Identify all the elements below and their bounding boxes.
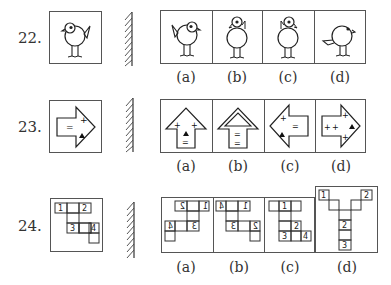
svg-text:3: 3 — [231, 222, 236, 231]
option-a-label[interactable]: (a) — [166, 158, 206, 174]
mirror-icon — [125, 98, 135, 152]
svg-text:2: 2 — [364, 191, 369, 200]
svg-text:=: = — [234, 130, 241, 139]
svg-text:=: = — [292, 122, 299, 131]
question-number: 23. — [18, 118, 42, 136]
option-b-label[interactable]: (b) — [217, 69, 257, 85]
svg-text:+: + — [342, 111, 349, 120]
option-b-grid-icon[interactable]: 4 1 3 2 — [213, 197, 264, 253]
question-number: 24. — [18, 217, 42, 235]
svg-text:+: + — [174, 121, 181, 130]
question-number: 22. — [18, 29, 42, 47]
option-b-label[interactable]: (b) — [218, 158, 258, 174]
svg-text:4: 4 — [303, 232, 308, 241]
mirror-icon — [126, 202, 136, 258]
arrow-right-icon: + = — [50, 101, 103, 154]
svg-text:2: 2 — [253, 222, 258, 231]
option-d-label[interactable]: (d) — [320, 69, 360, 85]
svg-text:+: + — [342, 133, 349, 142]
svg-text:2: 2 — [342, 221, 347, 230]
svg-text:2: 2 — [180, 202, 185, 211]
mirror-icon — [124, 12, 134, 66]
option-d-arrow-right-icon[interactable]: + + + + — [315, 99, 366, 153]
svg-text:+: + — [324, 123, 331, 132]
svg-text:1: 1 — [58, 204, 63, 213]
svg-text:=: = — [234, 139, 241, 148]
option-d-label[interactable]: (d) — [327, 259, 367, 275]
option-a-arrow-up-icon[interactable]: + + = — [160, 99, 212, 153]
svg-text:3: 3 — [70, 224, 75, 233]
option-c-bird-icon[interactable] — [262, 10, 314, 64]
svg-text:4: 4 — [91, 224, 96, 233]
option-c-label[interactable]: (c) — [270, 158, 310, 174]
svg-text:1: 1 — [282, 202, 287, 211]
svg-text:+: + — [332, 123, 339, 132]
svg-text:3: 3 — [282, 232, 287, 241]
option-d-label[interactable]: (d) — [321, 158, 361, 174]
svg-text:3: 3 — [192, 222, 197, 231]
svg-text:4: 4 — [168, 222, 173, 231]
svg-text:2: 2 — [294, 222, 299, 231]
option-a-bird-icon[interactable] — [160, 10, 212, 64]
svg-text:=: = — [182, 138, 189, 147]
svg-text:1: 1 — [321, 191, 326, 200]
grid-figure-icon: 1 2 3 4 — [51, 199, 104, 253]
svg-text:2: 2 — [82, 204, 87, 213]
option-d-bird-icon[interactable] — [314, 10, 366, 64]
option-a-label[interactable]: (a) — [166, 259, 206, 275]
question-figure: 1 2 3 4 — [50, 198, 103, 252]
option-a-grid-icon[interactable]: 2 1 4 3 — [161, 197, 213, 253]
svg-text:+: + — [80, 115, 88, 125]
question-figure: + = — [49, 100, 102, 153]
bird-icon — [50, 12, 103, 65]
option-a-label[interactable]: (a) — [166, 69, 206, 85]
option-c-label[interactable]: (c) — [270, 259, 310, 275]
svg-text:=: = — [66, 122, 74, 132]
option-b-label[interactable]: (b) — [219, 259, 259, 275]
option-b-bird-icon[interactable] — [212, 10, 262, 64]
option-c-grid-icon[interactable]: 1 2 3 4 — [264, 197, 315, 253]
option-d-grid-icon[interactable]: 1 2 2 3 — [315, 186, 378, 253]
svg-text:1: 1 — [243, 202, 248, 211]
svg-text:+: + — [191, 121, 198, 130]
question-figure — [49, 11, 102, 64]
svg-text:3: 3 — [342, 241, 347, 250]
svg-text:1: 1 — [203, 202, 208, 211]
option-c-arrow-left-icon[interactable]: + = — [264, 99, 315, 153]
option-c-label[interactable]: (c) — [268, 69, 308, 85]
svg-text:4: 4 — [219, 202, 224, 211]
svg-text:+: + — [280, 114, 287, 123]
option-b-arrow-up-icon[interactable]: = = — [212, 99, 264, 153]
